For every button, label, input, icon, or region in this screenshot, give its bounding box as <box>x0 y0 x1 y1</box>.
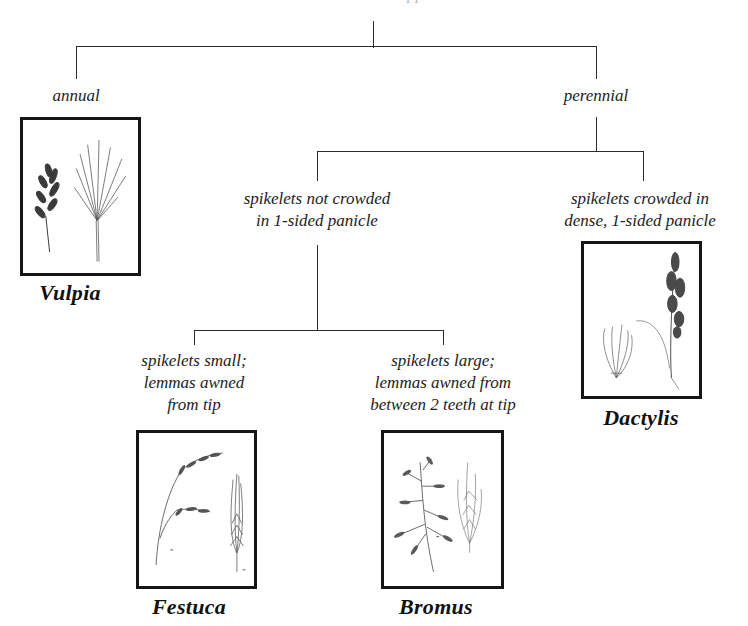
criterion-spikelets-crowded: spikelets crowded in dense, 1-sided pani… <box>564 188 716 232</box>
genus-label-dactylis: Dactylis <box>603 405 679 431</box>
connector-to-crowded <box>643 151 644 181</box>
connector-to-large <box>443 330 444 345</box>
genus-label-bromus: Bromus <box>399 594 473 620</box>
connector-perennial-stem <box>596 117 597 152</box>
festuca-illustration-box <box>136 430 257 589</box>
criterion-spikelets-large: spikelets large; lemmas awned from betwe… <box>370 350 515 416</box>
connector-perennial-split <box>317 151 644 152</box>
connector-root-split <box>76 46 597 47</box>
connector-to-perennial <box>596 47 597 79</box>
connector-root-stem <box>373 21 374 48</box>
criterion-perennial: perennial <box>564 85 629 107</box>
connector-to-small <box>194 330 195 345</box>
vulpia-illustration-box <box>20 117 141 276</box>
genus-label-festuca: Festuca <box>152 594 226 620</box>
criterion-spikelets-small: spikelets small; lemmas awned from tip <box>141 350 246 416</box>
grass-genus-key-diagram: …pp annual perennial <box>0 0 748 626</box>
bromus-grass-icon <box>384 433 501 586</box>
genus-label-vulpia: Vulpia <box>39 280 101 306</box>
connector-to-not-crowded <box>317 151 318 181</box>
connector-to-annual <box>76 46 77 79</box>
connector-not-crowded-split <box>194 330 444 331</box>
criterion-annual: annual <box>52 85 99 107</box>
dactylis-illustration-box <box>581 241 702 399</box>
vulpia-grass-icon <box>23 120 138 273</box>
connector-not-crowded-stem <box>317 245 318 331</box>
criterion-spikelets-not-crowded: spikelets not crowded in 1-sided panicle <box>244 188 391 232</box>
root-label-clipped: …pp <box>392 0 424 4</box>
dactylis-grass-icon <box>584 244 699 396</box>
festuca-grass-icon <box>139 433 254 586</box>
bromus-illustration-box <box>381 430 504 589</box>
